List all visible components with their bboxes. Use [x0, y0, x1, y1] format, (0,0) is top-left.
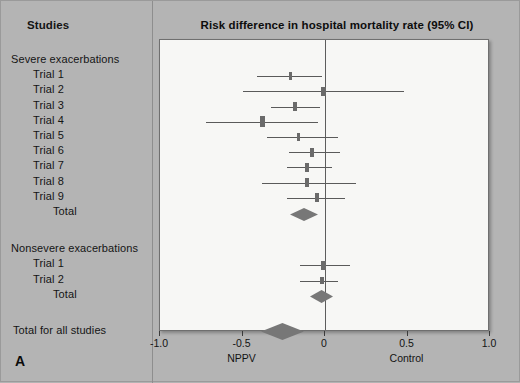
x-axis-tick-label: 1.0 [482, 337, 497, 349]
x-axis-tick-label: 0.5 [399, 337, 414, 349]
study-row-label: Trial 1 [33, 257, 64, 269]
x-axis-tick [324, 331, 325, 336]
study-row-label: Trial 8 [33, 175, 64, 187]
study-row-label: Trial 7 [33, 159, 64, 171]
axis-direction-label: NPPV [227, 352, 256, 364]
effect-estimate-marker [320, 277, 324, 285]
x-axis-tick [242, 331, 243, 336]
panel-letter: A [15, 353, 25, 369]
study-row-label: Trial 5 [33, 129, 64, 141]
studies-column-header: Studies [27, 19, 69, 31]
pooled-effect-diamond [310, 289, 333, 302]
study-row-label: Trial 4 [33, 114, 64, 126]
x-axis-tick [407, 331, 408, 336]
confidence-interval-line [289, 152, 340, 153]
group-title-label: Severe exacerbations [11, 53, 119, 65]
axis-direction-label: Control [390, 352, 424, 364]
x-axis-tick [489, 331, 490, 336]
group-total-label: Total [53, 288, 77, 300]
effect-estimate-marker [310, 148, 314, 157]
effect-estimate-marker [315, 193, 319, 202]
effect-estimate-marker [305, 178, 309, 187]
confidence-interval-line [267, 137, 338, 138]
effect-estimate-marker [289, 72, 293, 80]
x-axis-tick-label: -0.5 [232, 337, 250, 349]
plot-area [159, 39, 489, 331]
x-axis-tick-label: 0 [321, 337, 327, 349]
study-row-label: Trial 2 [33, 273, 64, 285]
study-row-label: Trial 9 [33, 190, 64, 202]
group-total-label: Total [53, 205, 77, 217]
x-axis-tick-label: -1.0 [150, 337, 168, 349]
overall-total-label: Total for all studies [13, 324, 106, 336]
confidence-interval-line [287, 167, 332, 168]
confidence-interval-line [262, 183, 356, 184]
effect-estimate-marker [260, 116, 265, 127]
study-row-label: Trial 6 [33, 144, 64, 156]
reference-line-zero [325, 40, 326, 330]
effect-estimate-marker [305, 163, 309, 172]
group-title-label: Nonsevere exacerbations [11, 242, 138, 254]
studies-label-column: Studies Severe exacerbationsTrial 1Trial… [1, 1, 153, 383]
x-axis: -1.0-0.500.51.0NPPVControl [159, 331, 490, 332]
effect-estimate-marker [321, 261, 325, 270]
x-axis-tick [159, 331, 160, 336]
study-row-label: Trial 3 [33, 99, 64, 111]
study-row-label: Trial 2 [33, 83, 64, 95]
column-divider [152, 1, 153, 383]
effect-estimate-marker [321, 87, 325, 96]
study-row-label: Trial 1 [33, 68, 64, 80]
effect-estimate-marker [293, 102, 297, 111]
effect-estimate-marker [297, 133, 301, 141]
plot-title: Risk difference in hospital mortality ra… [153, 19, 520, 31]
pooled-effect-diamond [290, 207, 318, 220]
